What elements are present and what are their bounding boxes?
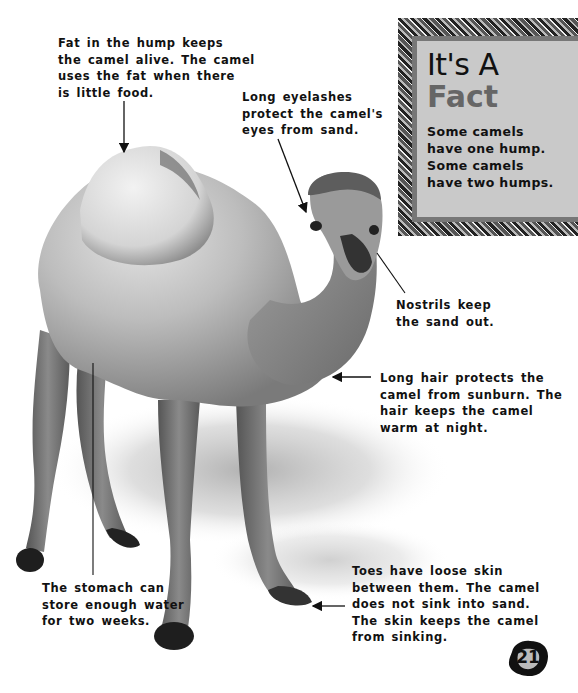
fact-title-line1: It's A [427,49,578,81]
fact-box: It's A Fact Some camels have one hump. S… [398,18,578,236]
arrow-eyelashes [278,139,306,212]
pointer-nostrils [377,253,405,293]
back-left-leg [26,330,70,552]
page-number-badge: 21 [506,638,550,678]
annotation-eyelashes: Long eyelashes protect the camel's eyes … [242,89,383,139]
annotation-hump: Fat in the hump keeps the camel alive. T… [58,35,255,101]
fact-text: Some camels have one hump. Some camels h… [427,123,578,191]
camel-eye [310,221,322,231]
page-number: 21 [506,647,550,667]
camel-hump [80,146,214,265]
fact-title-line2: Fact [427,81,578,113]
annotation-nostrils: Nostrils keep the sand out. [396,297,494,330]
annotation-stomach: The stomach can store enough water for t… [42,580,184,630]
annotation-hair: Long hair protects the camel from sunbur… [380,370,562,436]
annotation-toes: Toes have loose skin between them. The c… [352,563,540,646]
fact-box-panel: It's A Fact Some camels have one hump. S… [412,36,578,222]
